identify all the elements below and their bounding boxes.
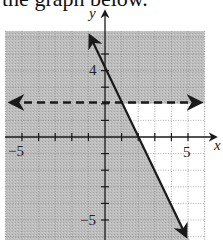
- inequality-graph: −5 5 4 −5 x y: [0, 0, 223, 240]
- y-tick-label-neg5: −5: [80, 212, 96, 228]
- x-tick-label-5: 5: [183, 144, 191, 160]
- x-tick-label-neg5: −5: [8, 143, 24, 159]
- y-axis-label: y: [87, 5, 96, 21]
- x-axis-label: x: [213, 137, 221, 153]
- y-tick-label-4: 4: [89, 62, 97, 78]
